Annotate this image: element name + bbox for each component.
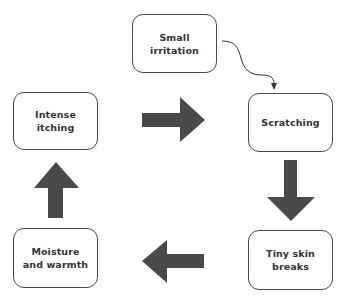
node-label: Small irritation	[150, 31, 199, 57]
node-intense-itching: Intense itching	[13, 92, 98, 150]
node-small-irritation: Small irritation	[132, 14, 217, 73]
node-moisture-and-warmth: Moisture and warmth	[13, 228, 98, 288]
curved-connector-arrowhead	[271, 83, 277, 90]
block-arrow-down	[267, 160, 315, 221]
node-label: Moisture and warmth	[23, 245, 88, 271]
node-label: Scratching	[261, 116, 319, 129]
block-arrow-right	[142, 97, 205, 142]
node-tiny-skin-breaks: Tiny skin breaks	[248, 230, 333, 290]
block-arrow-up	[34, 162, 79, 218]
node-scratching: Scratching	[248, 93, 333, 152]
block-arrow-left	[142, 240, 204, 283]
curved-connector-arrow	[222, 41, 274, 84]
node-label: Intense itching	[35, 108, 76, 134]
node-label: Tiny skin breaks	[266, 247, 315, 273]
